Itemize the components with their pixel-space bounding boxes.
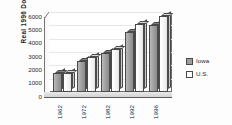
bar-face: [149, 25, 158, 92]
bar-face: [111, 49, 120, 92]
bar-us: [159, 16, 168, 92]
bar-face: [101, 53, 110, 92]
legend-label-iowa: Iowa: [196, 57, 209, 65]
bar-side: [144, 19, 147, 89]
y-axis-tick: 4000: [28, 39, 42, 46]
x-axis-tick-labels: 19621972198219921996: [44, 99, 172, 125]
bar-face: [87, 57, 96, 92]
bar-iowa: [77, 61, 86, 92]
x-axis-tick: 1992: [127, 99, 137, 125]
y-axis-tick: 2000: [28, 66, 42, 73]
bar-iowa: [53, 73, 62, 92]
chart-legend: Iowa U.S.: [186, 56, 230, 82]
bar-group: [149, 12, 171, 92]
bar-iowa: [125, 32, 134, 92]
bar-face: [159, 16, 168, 92]
bar-group: [125, 12, 147, 92]
bar-iowa: [101, 53, 110, 92]
bar-group: [53, 12, 75, 92]
bar-face: [77, 61, 86, 92]
y-axis-tick: 0: [39, 93, 42, 100]
x-axis-tick: 1996: [151, 99, 161, 125]
y-axis-tick: 3000: [28, 53, 42, 60]
legend-swatch-us: [186, 71, 193, 78]
bar-group: [77, 12, 99, 92]
bar-us: [87, 57, 96, 92]
bar-side: [120, 44, 123, 89]
y-axis-tick: 6000: [28, 13, 42, 20]
bar-face: [125, 32, 134, 92]
x-axis-tick: 1962: [55, 99, 65, 125]
legend-item-us: U.S.: [186, 69, 230, 79]
bar-iowa: [149, 25, 158, 92]
x-axis-tick: 1982: [103, 99, 113, 125]
bar-side: [96, 52, 99, 89]
bar-face: [53, 73, 62, 92]
bar-face: [135, 24, 144, 92]
bar-us: [111, 49, 120, 92]
plot-area: [44, 12, 172, 98]
y-axis-tick: 5000: [28, 26, 42, 33]
legend-swatch-iowa: [186, 58, 193, 65]
x-axis-tick: 1972: [79, 99, 89, 125]
bar-chart: Real 1996 Dollars 6000500040003000200010…: [0, 0, 232, 125]
bar-series-container: [44, 12, 172, 98]
legend-item-iowa: Iowa: [186, 56, 230, 66]
bar-group: [101, 12, 123, 92]
bar-us: [135, 24, 144, 92]
legend-label-us: U.S.: [196, 70, 208, 78]
bar-side: [168, 11, 171, 89]
y-axis-tick-labels: 6000500040003000200010000: [20, 12, 42, 100]
bar-face: [63, 73, 72, 92]
y-axis-tick: 1000: [28, 79, 42, 86]
bar-us: [63, 73, 72, 92]
